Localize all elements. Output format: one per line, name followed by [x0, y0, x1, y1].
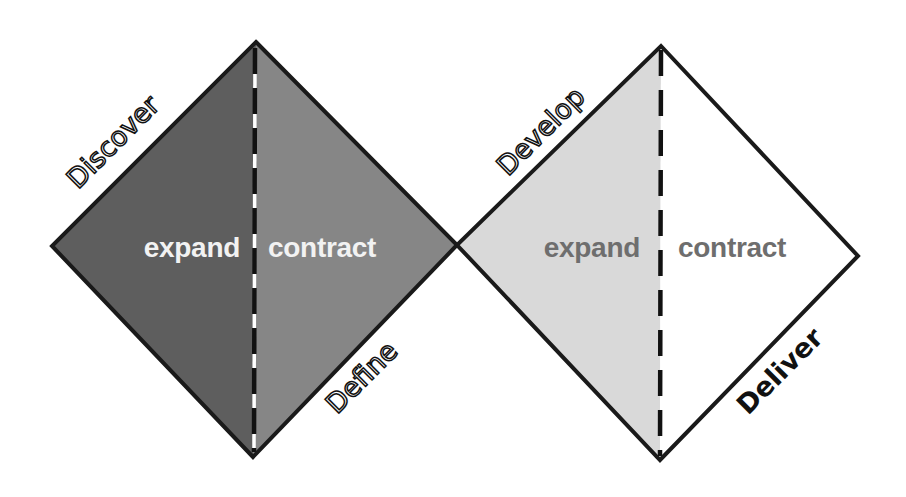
solution-divider — [660, 50, 661, 456]
double-diamond-diagram: expand contract expand contract Discover… — [0, 0, 906, 497]
discover-mode-label: expand — [144, 232, 240, 263]
problem-divider — [254, 48, 255, 452]
deliver-mode-label: contract — [678, 232, 786, 263]
develop-mode-label: expand — [544, 232, 640, 263]
define-mode-label: contract — [268, 232, 376, 263]
